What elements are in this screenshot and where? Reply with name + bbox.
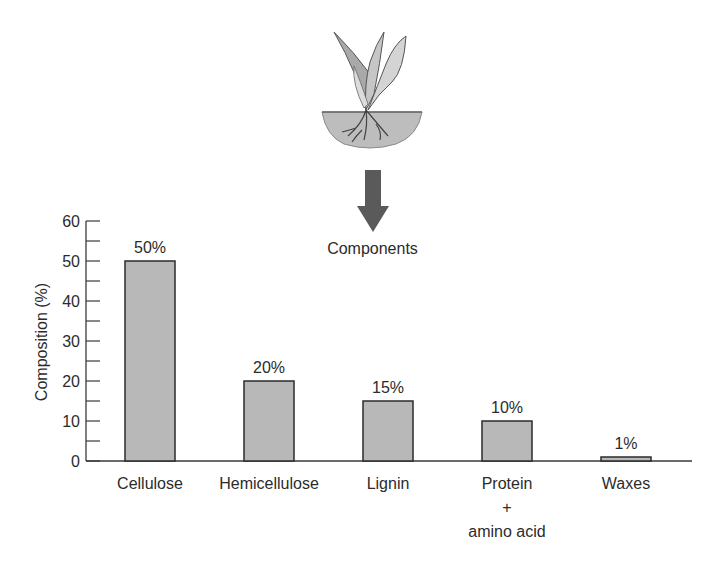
bar-value-label: 15%: [372, 379, 404, 396]
bar-protein-amino-acid: [482, 421, 532, 461]
x-category-label: Waxes: [602, 475, 650, 492]
x-category-label: +: [502, 499, 511, 516]
y-tick-label: 10: [62, 413, 80, 430]
x-category-label: Cellulose: [117, 475, 183, 492]
bar-lignin: [363, 401, 413, 461]
bar-value-label: 50%: [134, 239, 166, 256]
x-category-label: Lignin: [367, 475, 410, 492]
x-category-label: Hemicellulose: [219, 475, 319, 492]
bar-value-label: 1%: [614, 435, 637, 452]
y-tick-label: 0: [71, 453, 80, 470]
y-axis-label: Composition (%): [33, 283, 50, 401]
chart-bars: 50%Cellulose20%Hemicellulose15%Lignin10%…: [117, 239, 651, 540]
x-category-label: amino acid: [468, 523, 545, 540]
bar-cellulose: [125, 261, 175, 461]
bar-value-label: 10%: [491, 399, 523, 416]
bar-waxes: [601, 457, 651, 461]
y-tick-label: 60: [62, 213, 80, 230]
x-category-label: Protein: [482, 475, 533, 492]
bar-chart: 0102030405060 50%Cellulose20%Hemicellulo…: [0, 0, 717, 562]
y-tick-label: 50: [62, 253, 80, 270]
y-tick-label: 20: [62, 373, 80, 390]
bar-hemicellulose: [244, 381, 294, 461]
y-tick-label: 40: [62, 293, 80, 310]
y-tick-label: 30: [62, 333, 80, 350]
bar-value-label: 20%: [253, 359, 285, 376]
